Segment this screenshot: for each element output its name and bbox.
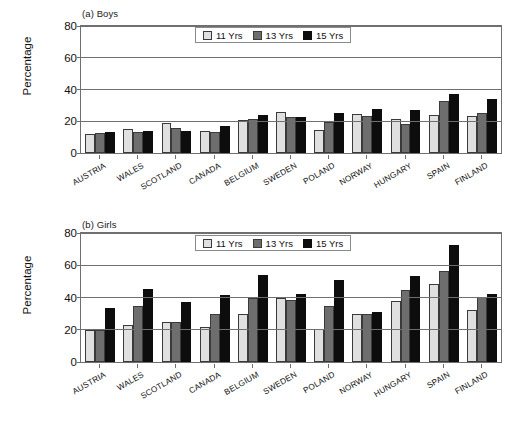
bar: [372, 312, 382, 362]
legend-label-11yrs: 11 Yrs: [216, 30, 243, 41]
x-axis-tick-label: POLAND: [292, 161, 336, 192]
bar: [314, 329, 324, 362]
bar: [439, 271, 449, 362]
x-axis-tick-mark: [405, 364, 406, 368]
bar: [276, 112, 286, 153]
x-axis-tick-label: BELGIUM: [216, 161, 260, 192]
bar: [352, 314, 362, 362]
y-axis-label-girls: Percentage: [21, 240, 33, 330]
panel-girls: (b) Girls Percentage 020406080 AUSTRIAWA…: [0, 207, 511, 425]
bar: [401, 124, 411, 153]
panel-title-girls: (b) Girls: [82, 219, 117, 230]
x-axis-tick-mark: [481, 155, 482, 159]
x-axis-tick-label: CANADA: [178, 370, 222, 401]
x-axis-tick-mark: [137, 155, 138, 159]
legend-swatch-icon-15yrs: [303, 31, 312, 40]
bar: [133, 306, 143, 362]
gridline: [81, 265, 501, 266]
legend-item-15yrs: 15 Yrs: [303, 30, 343, 41]
x-axis-tick-label: HUNGARY: [369, 370, 413, 401]
bar: [334, 280, 344, 362]
bar: [477, 113, 487, 153]
x-axis-tick-label: SCOTLAND: [140, 370, 184, 401]
x-axis-tick-label: SPAIN: [407, 161, 451, 192]
bar: [439, 101, 449, 153]
legend-label-13yrs: 13 Yrs: [266, 238, 293, 249]
bar: [391, 119, 401, 153]
bar: [391, 301, 401, 362]
legend-item-13yrs: 13 Yrs: [253, 30, 293, 41]
x-axis-tick-mark: [328, 155, 329, 159]
figure-container: (a) Boys Percentage 020406080 AUSTRIAWAL…: [0, 0, 511, 425]
bar: [162, 322, 172, 362]
legend-label-15yrs: 15 Yrs: [316, 30, 343, 41]
x-axis-tick-label: HUNGARY: [369, 161, 413, 192]
y-axis-tick-label: 20: [64, 324, 77, 336]
bar: [286, 300, 296, 362]
bar: [324, 122, 334, 153]
legend-item-11yrs: 11 Yrs: [203, 238, 243, 249]
gridline: [81, 297, 501, 298]
legend-boys: 11 Yrs 13 Yrs 15 Yrs: [195, 27, 351, 43]
x-axis-tick-mark: [252, 155, 253, 159]
gridline: [81, 57, 501, 58]
panel-boys: (a) Boys Percentage 020406080 AUSTRIAWAL…: [0, 0, 511, 205]
x-axis-tick-label: SWEDEN: [254, 161, 298, 192]
bar: [324, 306, 334, 362]
x-axis-tick-mark: [290, 364, 291, 368]
bar: [123, 129, 133, 153]
x-axis-tick-label: CANADA: [178, 161, 222, 192]
x-axis-tick-label: AUSTRIA: [63, 370, 107, 401]
x-axis-tick-label: FINLAND: [445, 370, 489, 401]
bar: [314, 130, 324, 153]
y-axis-tick-label: 40: [64, 292, 77, 304]
x-axis-tick-label: SCOTLAND: [140, 161, 184, 192]
x-axis-tick-mark: [99, 155, 100, 159]
y-axis-tick-mark: [77, 362, 81, 363]
bar: [85, 134, 95, 153]
x-axis-tick-mark: [252, 364, 253, 368]
legend-label-13yrs: 13 Yrs: [266, 30, 293, 41]
bar: [85, 330, 95, 362]
y-axis-tick-label: 80: [64, 227, 77, 239]
x-axis-tick-mark: [137, 364, 138, 368]
x-axis-tick-mark: [175, 364, 176, 368]
bar: [105, 132, 115, 153]
x-axis-tick-mark: [214, 155, 215, 159]
x-axis-tick-label: BELGIUM: [216, 370, 260, 401]
legend-swatch-icon-15yrs: [303, 239, 312, 248]
bar: [210, 314, 220, 362]
y-axis-tick-label: 20: [64, 115, 77, 127]
bar: [296, 117, 306, 153]
x-axis-tick-label: WALES: [101, 161, 145, 192]
gridline: [81, 89, 501, 90]
x-axis-tick-label: WALES: [101, 370, 145, 401]
y-axis-tick-label: 80: [64, 20, 77, 32]
legend-item-11yrs: 11 Yrs: [203, 30, 243, 41]
x-axis-labels-girls: AUSTRIAWALESSCOTLANDCANADABELGIUMSWEDENP…: [80, 364, 502, 424]
bar: [429, 284, 439, 362]
legend-swatch-icon-11yrs: [203, 239, 212, 248]
bar: [248, 119, 258, 153]
bar: [334, 113, 344, 153]
x-axis-tick-label: AUSTRIA: [63, 161, 107, 192]
legend-girls: 11 Yrs 13 Yrs 15 Yrs: [195, 235, 351, 251]
legend-swatch-icon-13yrs: [253, 31, 262, 40]
bar: [95, 133, 105, 153]
bar: [487, 99, 497, 153]
x-axis-tick-label: FINLAND: [445, 161, 489, 192]
legend-swatch-icon-11yrs: [203, 31, 212, 40]
x-axis-tick-mark: [443, 155, 444, 159]
x-axis-tick-label: NORWAY: [331, 370, 375, 401]
x-axis-tick-mark: [405, 155, 406, 159]
legend-label-15yrs: 15 Yrs: [316, 238, 343, 249]
x-axis-tick-mark: [443, 364, 444, 368]
bar: [162, 123, 172, 153]
x-axis-tick-mark: [328, 364, 329, 368]
legend-item-13yrs: 13 Yrs: [253, 238, 293, 249]
bar: [210, 132, 220, 153]
bar: [487, 294, 497, 362]
y-axis-tick-mark: [77, 57, 81, 58]
panel-title-boys: (a) Boys: [82, 8, 118, 19]
bar: [171, 128, 181, 153]
